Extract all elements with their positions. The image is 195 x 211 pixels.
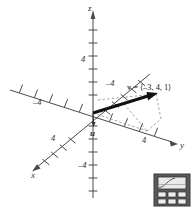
vector-v	[93, 92, 158, 113]
graphing-calculator-icon[interactable]	[153, 173, 191, 207]
z-axis	[89, 10, 98, 198]
y-axis-label: y	[179, 140, 184, 150]
projection-base-x	[147, 119, 161, 131]
y-tick	[79, 104, 82, 112]
y-tick	[139, 123, 142, 131]
projection-diagonal	[124, 104, 147, 131]
y-tick	[49, 94, 52, 102]
y-tick	[154, 128, 157, 136]
calculator-button	[178, 192, 186, 197]
z-tick-label-positive: 4	[81, 54, 86, 64]
x-axis-label: x	[30, 170, 35, 180]
y-tick-label-negative: –4	[32, 97, 42, 107]
y-axis-arrowhead	[170, 140, 179, 146]
vector-u-label: u	[90, 128, 95, 138]
vector-diagram-figure: z y x 4 –4 4 –4 4 –4 v = ⟨–3, 4, 1⟩ u	[0, 0, 195, 211]
z-tick-label-negative: –4	[77, 160, 87, 170]
vector-v-label: v = ⟨–3, 4, 1⟩	[127, 83, 171, 92]
y-tick	[124, 118, 127, 126]
calculator-button	[168, 199, 176, 204]
y-tick-label-positive: 4	[142, 135, 147, 145]
projection-vertical	[156, 94, 161, 119]
y-tick	[64, 99, 67, 107]
x-tick-label-positive: 4	[51, 133, 56, 143]
x-tick-label-negative: –4	[105, 78, 115, 88]
calculator-button	[158, 192, 166, 197]
calculator-svg	[153, 173, 191, 207]
calculator-button	[168, 192, 176, 197]
y-tick	[19, 85, 22, 93]
calculator-button	[178, 199, 186, 204]
calculator-button	[158, 199, 166, 204]
z-axis-label: z	[87, 3, 92, 13]
